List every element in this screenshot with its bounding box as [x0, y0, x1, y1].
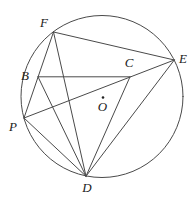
label-B: B	[21, 68, 29, 83]
diagram-stage: FEBCPDO	[0, 0, 196, 213]
label-P: P	[8, 119, 17, 134]
label-E: E	[178, 51, 187, 66]
label-D: D	[81, 180, 92, 195]
geometry-figure: FEBCPDO	[0, 0, 196, 213]
label-F: F	[39, 15, 49, 30]
label-O: O	[98, 99, 108, 114]
segment-B-D	[38, 77, 86, 176]
segment-F-D	[54, 32, 87, 176]
label-C: C	[125, 55, 134, 70]
segment-P-D	[24, 118, 86, 176]
figure-layer: FEBCPDO	[8, 15, 187, 195]
circle-outline	[21, 16, 183, 178]
